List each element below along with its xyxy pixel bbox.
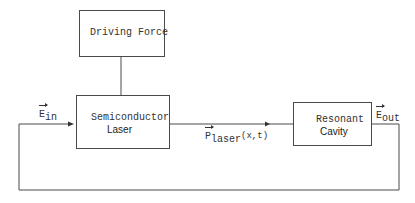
p-laser-signal-label: Plaser(x,t) [205, 126, 268, 144]
e-in-signal-label: Ein [39, 104, 57, 122]
block-diagram: Driving Force Semiconductor Laser Resona… [0, 0, 415, 203]
e-out-subscript: out [382, 113, 400, 124]
e-in-subscript: in [45, 112, 57, 123]
p-laser-args: (x,t) [241, 131, 268, 141]
driving-force-label: Driving Force [90, 27, 168, 38]
e-in-arrow-icon [68, 122, 74, 127]
p-laser-subscript: laser [211, 134, 241, 145]
driving-force-block: Driving Force [79, 10, 165, 57]
e-out-signal-label: Eout [376, 105, 400, 123]
cavity-label: Cavity [320, 126, 348, 137]
laser-label: Laser [107, 124, 132, 135]
resonant-cavity-block: Resonant Cavity [293, 102, 372, 146]
resonant-label: Resonant [316, 114, 364, 125]
semiconductor-laser-block: Semiconductor Laser [76, 95, 170, 149]
semiconductor-label: Semiconductor [91, 112, 169, 123]
